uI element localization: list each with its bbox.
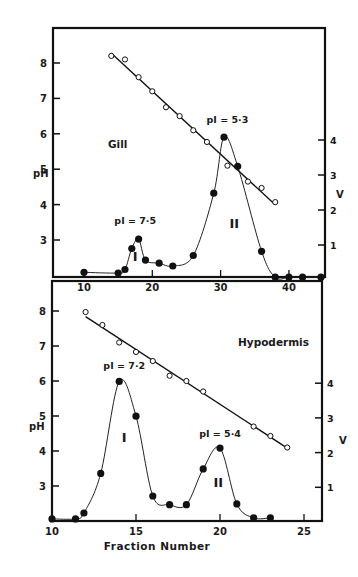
v-point (132, 413, 139, 420)
v-point (169, 262, 176, 269)
v-point (135, 235, 142, 242)
ph-point (259, 185, 264, 190)
y-axis-label: pH (33, 168, 49, 179)
v-point (183, 501, 190, 508)
ph-point (109, 53, 114, 58)
v-point (220, 134, 227, 141)
v-point (80, 509, 87, 516)
v-point (272, 274, 279, 281)
v-point (142, 256, 149, 263)
v-point (285, 274, 292, 281)
v-point (233, 500, 240, 507)
y2-tick-label: 3 (330, 170, 337, 181)
y-tick-label: 6 (39, 376, 46, 387)
y2-tick-label: 4 (327, 378, 334, 389)
v-point (250, 514, 257, 521)
y2-tick-label: 2 (330, 205, 337, 216)
v-point (121, 266, 128, 273)
y2-tick-label: 3 (327, 413, 334, 424)
ph-point (136, 75, 141, 80)
peak-label: II (229, 216, 239, 231)
v-point (115, 269, 122, 276)
v-point (80, 269, 87, 276)
v-point (48, 515, 55, 522)
pi-annotation: pI = 7·5 (114, 215, 156, 226)
ph-point (191, 128, 196, 133)
y2-tick-label: 4 (330, 135, 337, 146)
pi-annotation: pI = 7·2 (103, 360, 145, 371)
v-point (234, 163, 241, 170)
gill-panel: 345678123410203040pHVGillpI = 7·5pI = 5·… (33, 28, 344, 293)
ph-point (184, 378, 189, 383)
x-tick-label: 20 (145, 282, 159, 293)
ph-point (163, 105, 168, 110)
y-tick-label: 6 (40, 129, 47, 140)
v-point (156, 260, 163, 267)
ph-point (117, 340, 122, 345)
v-point (210, 190, 217, 197)
y2-axis-label: V (339, 435, 347, 446)
ph-point (133, 349, 138, 354)
v-point (317, 274, 324, 281)
peak-label: I (122, 430, 127, 445)
x-tick-label: 10 (77, 282, 91, 293)
v-point (190, 252, 197, 259)
ph-point (273, 200, 278, 205)
y2-tick-label: 1 (327, 482, 334, 493)
ph-point (150, 358, 155, 363)
y-tick-label: 3 (39, 481, 46, 492)
chart-figure: 345678123410203040pHVGillpI = 7·5pI = 5·… (0, 0, 358, 577)
x-tick-label: 10 (45, 526, 59, 537)
ph-point (285, 445, 290, 450)
y-tick-label: 4 (39, 446, 46, 457)
v-curve (84, 136, 321, 279)
x-axis-label: Fraction Number (104, 540, 211, 552)
v-point (166, 501, 173, 508)
peak-label: II (213, 475, 223, 490)
y-tick-label: 3 (40, 235, 47, 246)
ph-point (122, 57, 127, 62)
ph-point (245, 179, 250, 184)
x-tick-label: 15 (129, 526, 143, 537)
v-point (216, 444, 223, 451)
plot-frame (53, 28, 325, 277)
v-point (116, 378, 123, 385)
panel-title: Gill (108, 138, 127, 150)
v-point (97, 470, 104, 477)
ph-point (83, 309, 88, 314)
y2-tick-label: 2 (327, 448, 334, 459)
ph-point (177, 114, 182, 119)
y-tick-label: 7 (40, 93, 47, 104)
v-point (149, 492, 156, 499)
y2-axis-label: V (336, 189, 344, 200)
ph-point (251, 424, 256, 429)
v-point (267, 514, 274, 521)
pi-annotation: pI = 5·4 (199, 428, 241, 439)
ph-point (201, 389, 206, 394)
y-tick-label: 7 (39, 341, 46, 352)
y2-tick-label: 1 (330, 240, 337, 251)
v-curve (52, 379, 270, 519)
v-point (258, 248, 265, 255)
ph-point (225, 163, 230, 168)
v-point (72, 515, 79, 522)
pi-annotation: pI = 5·3 (207, 114, 249, 125)
x-tick-label: 20 (213, 526, 227, 537)
plot-frame (52, 281, 322, 521)
y-tick-label: 8 (39, 306, 46, 317)
y-axis-label: pH (29, 421, 45, 432)
v-point (200, 465, 207, 472)
ph-point (100, 322, 105, 327)
y-tick-label: 8 (40, 58, 47, 69)
x-tick-label: 40 (282, 282, 296, 293)
x-tick-label: 25 (297, 526, 311, 537)
x-tick-label: 30 (214, 282, 228, 293)
ph-point (204, 139, 209, 144)
ph-point (268, 433, 273, 438)
v-point (299, 274, 306, 281)
hypodermis-panel: 345678123410152025pHVHypodermispI = 7·2p… (29, 281, 347, 552)
panel-title: Hypodermis (238, 336, 309, 348)
y-tick-label: 4 (40, 200, 47, 211)
ph-point (150, 89, 155, 94)
ph-point (167, 373, 172, 378)
